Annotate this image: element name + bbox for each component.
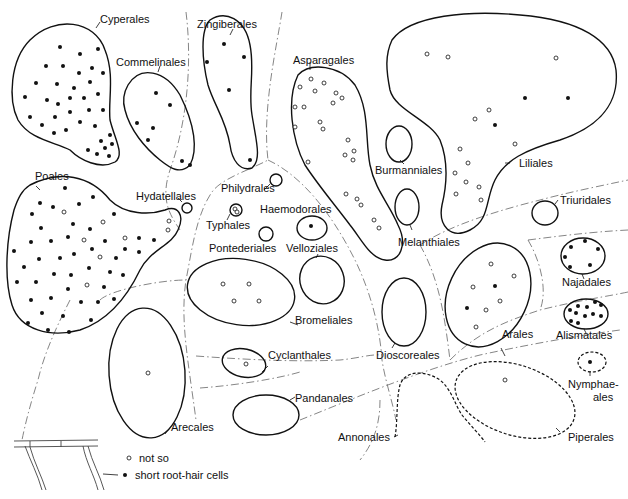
- label-philydrales: Philydrales: [221, 182, 275, 194]
- label-pontederiales: Pontederiales: [209, 242, 276, 254]
- outline-piperales: [445, 348, 585, 453]
- label-cyperales: Cyperales: [100, 13, 150, 25]
- label-piperales: Piperales: [568, 431, 614, 443]
- label-annonales: Annonales: [338, 431, 390, 443]
- legend-filled-marker: [123, 473, 127, 477]
- label-cyclanthales: Cyclanthales: [268, 349, 331, 361]
- legend-open-label: not so: [139, 452, 169, 464]
- outline-dioscoreales: [382, 278, 426, 346]
- label-nymphaeales-line1: Nymphae-: [568, 378, 619, 390]
- label-velloziales: Velloziales: [286, 242, 338, 254]
- label-commelinales: Commelinales: [116, 56, 186, 68]
- outline-haemodorales: [297, 216, 327, 240]
- label-zingiberales: Zingiberales: [197, 18, 257, 30]
- label-alismatales: Alismatales: [556, 329, 612, 341]
- outline-bromeliales: [183, 252, 299, 332]
- legend-filled-label: short root-hair cells: [135, 469, 229, 481]
- label-bromeliales: Bromeliales: [295, 314, 352, 326]
- label-melanthiales: Melanthiales: [398, 236, 460, 248]
- legend-markers: [123, 456, 131, 477]
- label-typhales: Typhales: [206, 219, 250, 231]
- outline-pontederiales: [259, 227, 273, 241]
- leader-lines: [36, 22, 590, 437]
- label-liliales: Liliales: [519, 157, 553, 169]
- monocot-order-diagram: Cyperales Commelinales Zingiberales Aspa…: [0, 0, 628, 499]
- label-haemodorales: Haemodorales: [260, 203, 332, 215]
- outline-annonales: [395, 373, 485, 442]
- legend-open-marker: [127, 456, 131, 460]
- outline-najadales: [561, 238, 605, 274]
- label-dioscoreales: Dioscoreales: [376, 349, 440, 361]
- label-pandanales: Pandanales: [295, 392, 353, 404]
- label-arecales: Arecales: [171, 421, 214, 433]
- label-najadales: Najadales: [562, 276, 611, 288]
- label-nymphaeales-line2: ales: [593, 391, 613, 403]
- outline-velloziales: [293, 250, 351, 310]
- outline-hydatellales: [182, 203, 192, 213]
- outline-burmanniales: [386, 126, 412, 162]
- outline-pandanales: [233, 395, 299, 435]
- outline-triuridales: [532, 201, 558, 225]
- label-poales: Poales: [35, 170, 69, 182]
- label-burmanniales: Burmanniales: [375, 164, 442, 176]
- label-asparagales: Asparagales: [293, 54, 354, 66]
- label-triuridales: Triuridales: [560, 194, 611, 206]
- outline-cyperales: [12, 24, 119, 165]
- outline-commelinales: [124, 73, 195, 170]
- label-arales: Arales: [502, 328, 533, 340]
- outline-melanthiales: [395, 189, 419, 225]
- outline-arales: [429, 229, 547, 361]
- outline-zingiberales: [203, 16, 257, 169]
- root-hair-illustration: [14, 440, 118, 490]
- label-hydatellales: Hydatellales: [136, 190, 196, 202]
